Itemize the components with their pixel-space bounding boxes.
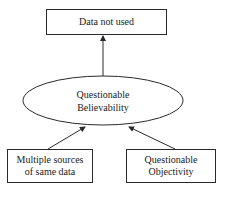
believability-line2: Believability	[77, 101, 129, 114]
node-questionable-believability: Questionable Believability	[23, 76, 183, 125]
objectivity-line1: Questionable	[145, 154, 198, 166]
objectivity-line2: Objectivity	[149, 166, 194, 178]
node-multiple-sources: Multiple sources of same data	[7, 149, 93, 183]
multiple-sources-line1: Multiple sources	[17, 154, 84, 166]
node-data-not-used-label: Data not used	[79, 16, 134, 28]
edge-objectivity-to-believability	[129, 127, 175, 149]
edge-multiple-sources-to-believability	[48, 127, 85, 149]
node-questionable-objectivity: Questionable Objectivity	[126, 149, 216, 183]
believability-line1: Questionable	[77, 88, 130, 101]
node-data-not-used: Data not used	[46, 9, 167, 35]
multiple-sources-line2: of same data	[25, 166, 76, 178]
